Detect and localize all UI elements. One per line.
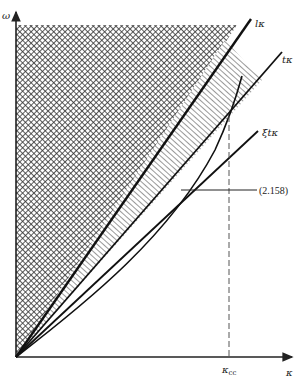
kappa-cc-sub: cc bbox=[229, 369, 237, 377]
xi-t-kappa-label: ξtκ bbox=[262, 127, 279, 138]
l-kappa-label: lκ bbox=[255, 18, 265, 29]
kappa-cc-label: κcc bbox=[221, 364, 236, 377]
eq-2-158-label: (2.158) bbox=[259, 185, 288, 197]
t-kappa-label: tκ bbox=[282, 54, 293, 65]
dispersion-diagram: ω κ lκ tκ ξtκ (2.158) κcc bbox=[0, 0, 304, 380]
kappa-axis-label: κ bbox=[285, 367, 293, 378]
omega-axis-label: ω bbox=[2, 10, 10, 21]
